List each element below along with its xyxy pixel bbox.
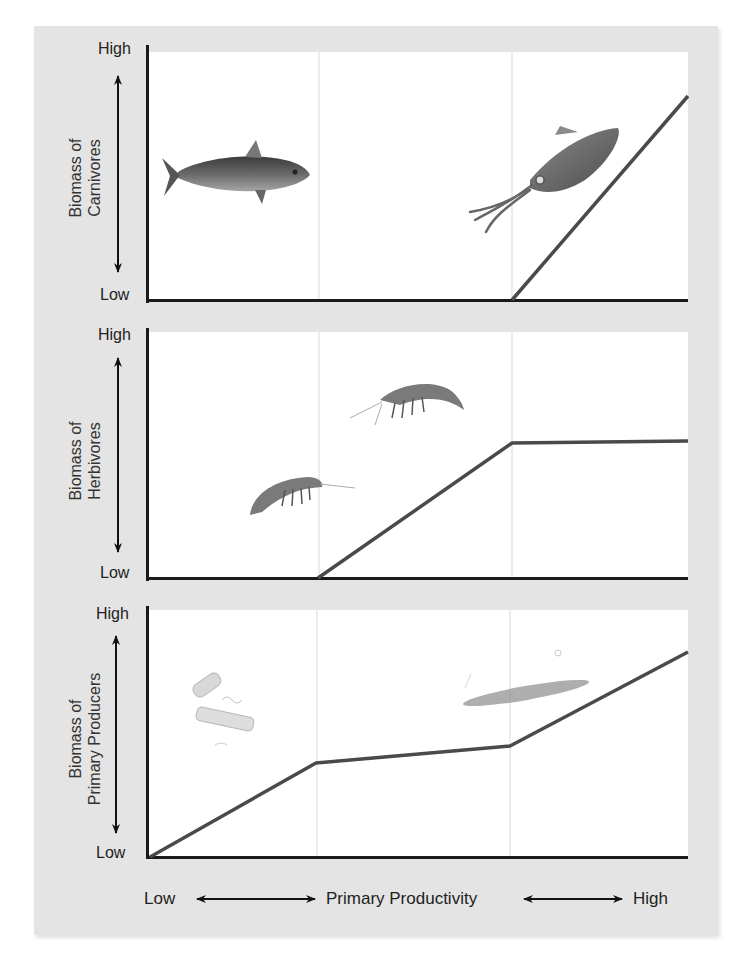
- tuna-icon: [162, 140, 310, 204]
- herbivores-line: [318, 441, 688, 578]
- phytoplankton-icon: [462, 650, 590, 711]
- x-axis-title: Primary Productivity: [326, 889, 477, 909]
- squid-icon: [470, 126, 619, 232]
- x-axis-high-label: High: [633, 889, 668, 909]
- shrimp-icon: [350, 384, 464, 425]
- carnivores-line: [512, 96, 688, 300]
- shrimp-icon: [250, 477, 355, 515]
- producers-line: [150, 652, 688, 857]
- chart-overlay: [0, 0, 738, 960]
- diatom-icon: [191, 671, 255, 745]
- x-axis-low-label: Low: [144, 889, 175, 909]
